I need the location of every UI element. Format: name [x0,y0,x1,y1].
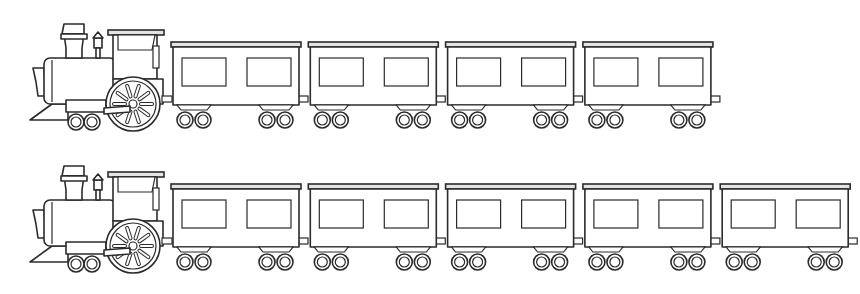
passenger-car [308,42,445,128]
locomotive [30,166,172,273]
train-top [30,24,720,131]
passenger-car [446,42,583,128]
passenger-car [583,42,720,128]
passenger-car [583,184,720,270]
passenger-car [720,184,857,270]
passenger-car [308,184,445,270]
passenger-car [171,42,308,128]
locomotive [30,24,172,131]
trains-canvas [0,0,860,294]
passenger-car [446,184,583,270]
train-scene: Train with 4 cars Train with 5 cars [0,0,860,294]
passenger-car [171,184,308,270]
train-bottom [30,166,857,273]
